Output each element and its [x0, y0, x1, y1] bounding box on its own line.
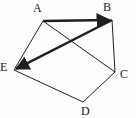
vertex-label-d: D — [81, 105, 90, 117]
edge-a-c — [43, 21, 115, 72]
edge-b-c — [112, 20, 115, 72]
edge-a-b — [43, 20, 110, 21]
edge-layer — [14, 20, 115, 102]
edge-b-e — [16, 20, 112, 69]
vertex-label-b: B — [103, 1, 111, 13]
vertex-label-c: C — [120, 68, 128, 80]
vertex-label-e: E — [0, 61, 7, 73]
edge-d-e — [14, 70, 83, 102]
edge-c-d — [83, 72, 115, 102]
vertex-label-a: A — [33, 2, 42, 14]
graph-diagram: A B C D E — [0, 0, 136, 118]
graph-edges-canvas — [0, 0, 136, 118]
